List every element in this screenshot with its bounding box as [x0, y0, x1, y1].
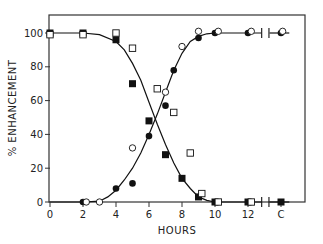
marker-filled-circle — [170, 67, 177, 74]
y-axis: 020406080100 — [24, 28, 50, 208]
chart: 024681012C 020406080100 HOURS % ENHANCEM… — [0, 0, 323, 244]
marker-filled-circle — [129, 180, 136, 187]
fitted-curves — [50, 33, 289, 202]
marker-filled-square — [129, 80, 136, 87]
marker-open-square — [199, 190, 205, 196]
y-tick-label: 40 — [30, 129, 43, 140]
marker-filled-square — [162, 151, 169, 158]
marker-open-square — [47, 31, 53, 37]
marker-open-circle — [279, 28, 285, 34]
x-axis-title: HOURS — [158, 225, 197, 236]
marker-filled-circle — [195, 35, 202, 42]
marker-open-square — [113, 30, 119, 36]
y-tick-label: 20 — [30, 163, 43, 174]
x-tick-label: 0 — [47, 209, 53, 220]
y-axis-title: % ENHANCEMENT — [7, 59, 18, 156]
marker-open-square — [187, 150, 193, 156]
y-tick-label: 0 — [37, 197, 43, 208]
y-tick-label: 80 — [30, 61, 43, 72]
marker-filled-square — [113, 36, 120, 43]
x-tick-label: 10 — [209, 209, 222, 220]
x-tick-label: 12 — [242, 209, 255, 220]
marker-filled-square — [179, 175, 186, 182]
marker-filled-square — [278, 199, 285, 206]
marker-open-circle — [129, 145, 135, 151]
marker-filled-circle — [113, 185, 120, 192]
marker-open-square — [129, 45, 135, 51]
marker-filled-circle — [146, 133, 153, 140]
marker-open-circle — [83, 199, 89, 205]
x-tick-label: C — [278, 209, 285, 220]
marker-open-square — [215, 199, 221, 205]
x-tick-label: 2 — [80, 209, 86, 220]
axis-break-marks — [262, 28, 269, 207]
fitted-curve — [50, 33, 261, 202]
marker-open-square — [80, 31, 86, 37]
marker-filled-square — [146, 117, 153, 124]
marker-open-square — [171, 109, 177, 115]
marker-open-circle — [195, 28, 201, 34]
marker-open-circle — [179, 43, 185, 49]
marker-filled-circle — [162, 102, 169, 109]
marker-open-circle — [162, 89, 168, 95]
plot-frame — [49, 15, 305, 202]
data-points — [47, 28, 286, 205]
y-tick-label: 60 — [30, 95, 43, 106]
x-tick-label: 8 — [179, 209, 185, 220]
marker-open-square — [154, 86, 160, 92]
marker-open-circle — [215, 28, 221, 34]
x-tick-label: 4 — [113, 209, 119, 220]
y-tick-label: 100 — [24, 28, 43, 39]
marker-open-circle — [96, 199, 102, 205]
marker-open-circle — [248, 28, 254, 34]
x-tick-label: 6 — [146, 209, 152, 220]
marker-open-square — [248, 199, 254, 205]
